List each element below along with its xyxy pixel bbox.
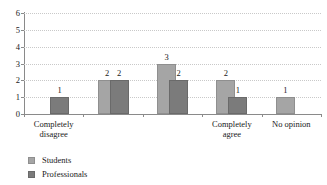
bar-value-label: 3 <box>157 53 176 62</box>
bar-professionals[interactable] <box>228 97 247 114</box>
x-axis-tick-mark <box>321 114 322 117</box>
bar-professionals[interactable] <box>50 97 69 114</box>
y-axis-tick-label: 1 <box>6 93 20 102</box>
bar-professionals[interactable] <box>110 80 129 114</box>
legend-label-professionals: Professionals <box>42 170 87 179</box>
bar-chart: 6543210 Completely disagreeCompletely ag… <box>0 0 327 185</box>
legend-label-students: Students <box>42 156 71 165</box>
x-axis-line <box>24 114 322 115</box>
y-axis-tick-label: 5 <box>6 26 20 35</box>
bar-students[interactable] <box>276 97 295 114</box>
y-axis-tick-label: 0 <box>6 110 20 119</box>
y-axis-tick-label: 4 <box>6 43 20 52</box>
x-axis-tick-mark <box>143 114 144 117</box>
legend-swatch-icon-students <box>28 157 35 164</box>
bar-value-label: 1 <box>228 86 247 95</box>
legend-item-professionals[interactable]: Professionals <box>28 167 87 181</box>
y-axis-tick-label: 6 <box>6 9 20 18</box>
legend-swatch-icon-professionals <box>28 171 35 178</box>
bar-value-label: 1 <box>50 86 69 95</box>
y-axis-tick-label: 2 <box>6 76 20 85</box>
x-axis-tick-mark <box>262 114 263 117</box>
x-axis-tick-mark <box>202 114 203 117</box>
y-axis-tick-label: 3 <box>6 60 20 69</box>
x-axis-tick-mark <box>83 114 84 117</box>
bar-professionals[interactable] <box>169 80 188 114</box>
bar-value-label: 1 <box>276 86 295 95</box>
x-axis-category-label: Completely disagree <box>16 119 92 139</box>
chart-legend: Students Professionals <box>28 153 87 181</box>
bar-value-label: 2 <box>110 69 129 78</box>
legend-item-students[interactable]: Students <box>28 153 87 167</box>
bar-value-label: 2 <box>169 69 188 78</box>
plot-area <box>24 13 321 114</box>
bar-value-label: 2 <box>216 69 235 78</box>
x-axis-tick-mark <box>24 114 25 117</box>
x-axis-category-label: No opinion <box>253 119 327 129</box>
